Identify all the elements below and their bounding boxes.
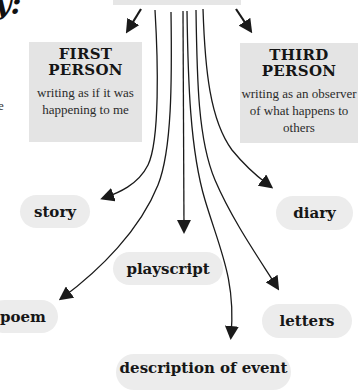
form-playscript: playscript [113, 252, 223, 285]
arrow-to-playscript [183, 11, 184, 230]
form-poem: poem [0, 300, 58, 333]
arrow-to-description [187, 11, 232, 336]
form-letters: letters [262, 304, 352, 338]
arrow-to-third-person [236, 9, 250, 30]
form-description-of-event: description of event [116, 354, 291, 390]
form-diary: diary [276, 196, 353, 230]
third-person-box: THIRD PERSON writing as an observer of w… [240, 43, 358, 143]
third-person-heading-line1: THIRD [240, 47, 358, 63]
first-person-description: writing as if it was happening to me [29, 84, 142, 118]
form-story: story [20, 195, 90, 228]
third-person-heading-line2: PERSON [240, 63, 358, 79]
arrow-to-first-person [128, 9, 141, 30]
first-person-box: FIRST PERSON writing as if it was happen… [29, 42, 142, 142]
third-person-description: writing as an observer of what happens t… [240, 85, 358, 136]
first-person-heading-line2: PERSON [29, 62, 142, 78]
first-person-heading-line1: FIRST [29, 46, 142, 62]
